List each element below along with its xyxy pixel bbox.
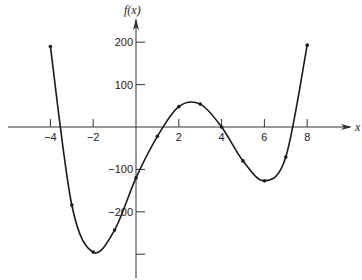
data-point <box>70 203 74 207</box>
data-point <box>305 43 309 47</box>
data-point <box>284 155 288 159</box>
x-tick-label: −4 <box>44 131 57 143</box>
data-point <box>49 45 53 49</box>
y-tick-label: 100 <box>115 79 133 91</box>
x-tick-label: 8 <box>304 131 310 143</box>
y-tick-label: −100 <box>108 163 133 175</box>
data-point <box>263 179 267 183</box>
x-tick-label: −2 <box>87 131 100 143</box>
data-point <box>134 176 138 180</box>
data-point <box>113 228 117 232</box>
data-point <box>198 102 202 106</box>
data-point <box>91 250 95 254</box>
data-point <box>177 105 181 109</box>
y-tick-label: 200 <box>115 36 133 48</box>
data-point <box>156 135 160 139</box>
axes <box>8 18 352 278</box>
x-tick-label: 2 <box>176 131 182 143</box>
function-curve <box>50 45 307 253</box>
data-point <box>241 159 245 163</box>
x-axis-label: x <box>354 120 361 134</box>
ticks: −4−22468200100−100−200 <box>44 36 310 254</box>
x-tick-label: 6 <box>261 131 267 143</box>
data-point-markers <box>49 43 309 254</box>
function-plot: −4−22468200100−100−200 f(x) x <box>0 0 362 280</box>
x-tick-label: 4 <box>219 131 225 143</box>
data-point <box>220 125 224 129</box>
y-axis-label: f(x) <box>124 3 141 17</box>
